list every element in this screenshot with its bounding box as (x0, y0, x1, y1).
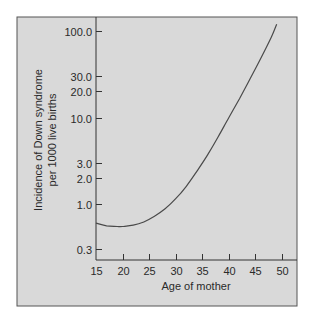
y-tick-label: 30.0 (71, 71, 92, 83)
x-tick-label: 25 (143, 265, 155, 277)
y-axis-label-line2: per 1000 live births (46, 93, 58, 186)
x-tick-label: 45 (249, 265, 261, 277)
y-tick-label: 3.0 (77, 158, 92, 170)
y-tick-label: 2.0 (77, 173, 92, 185)
y-tick-label: 0.3 (77, 244, 92, 256)
chart-figure: 0.31.02.03.010.020.030.0100.0 1520253035… (0, 0, 316, 324)
chart-panel (17, 17, 297, 306)
x-tick-label: 30 (170, 265, 182, 277)
y-axis-label-line1: Incidence of Down syndrome (32, 69, 44, 211)
y-tick-label: 1.0 (77, 199, 92, 211)
x-axis-label: Age of mother (161, 280, 230, 292)
line-chart: 0.31.02.03.010.020.030.0100.0 1520253035… (0, 0, 316, 324)
y-tick-label: 100.0 (64, 26, 92, 38)
x-tick-label: 20 (117, 265, 129, 277)
x-tick-label: 40 (223, 265, 235, 277)
y-tick-label: 10.0 (71, 113, 92, 125)
x-tick-label: 15 (90, 265, 102, 277)
x-tick-label: 50 (276, 265, 288, 277)
x-tick-label: 35 (196, 265, 208, 277)
y-tick-label: 20.0 (71, 86, 92, 98)
